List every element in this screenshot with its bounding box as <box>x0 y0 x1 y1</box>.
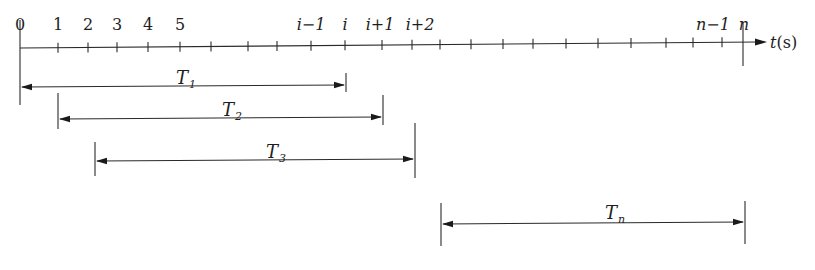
tick-label: n <box>739 15 749 34</box>
interval-label: T3 <box>266 141 286 165</box>
arrow-right-icon <box>403 156 414 162</box>
arrow-left-icon <box>96 158 107 164</box>
interval-line <box>443 222 743 224</box>
interval-label: T1 <box>176 67 196 91</box>
tick-label: i+1 <box>366 15 395 34</box>
tick-label: i <box>342 15 347 34</box>
interval-T3: T3 <box>95 123 415 178</box>
arrow-right-icon <box>733 219 744 225</box>
interval-T1: T1 <box>21 67 346 92</box>
tick-label: n−1 <box>696 15 730 34</box>
timeline-diagram: 012345i−1ii+1i+2n−1n t(s) T1T2T3Tn <box>0 0 815 270</box>
timeline-svg: 012345i−1ii+1i+2n−1n t(s) T1T2T3Tn <box>0 0 815 270</box>
interval-label: T2 <box>222 99 242 123</box>
axis-tick-labels: 012345i−1ii+1i+2n−1n <box>15 15 749 34</box>
interval-line <box>60 117 381 119</box>
arrow-right-icon <box>371 114 382 120</box>
axis-unit: (s) <box>776 33 797 52</box>
interval-T2: T2 <box>58 93 383 129</box>
tick-label: 5 <box>175 15 185 34</box>
tick-label: 2 <box>83 15 93 34</box>
interval-label: Tn <box>605 202 625 226</box>
tick-label: 0 <box>15 15 25 34</box>
arrow-left-icon <box>59 116 70 122</box>
interval-Tn: Tn <box>441 201 745 246</box>
tick-label: i−1 <box>297 15 326 34</box>
tick-label: 4 <box>143 15 153 34</box>
axis-arrow-icon <box>755 39 767 46</box>
tick-label: 3 <box>112 15 122 34</box>
interval-line <box>97 159 413 161</box>
arrow-right-icon <box>334 82 345 88</box>
tick-label: 1 <box>53 15 63 34</box>
arrow-left-icon <box>21 84 32 90</box>
tick-label: i+2 <box>406 15 435 34</box>
period-intervals: T1T2T3Tn <box>21 67 745 246</box>
time-axis: 012345i−1ii+1i+2n−1n t(s) <box>15 15 797 105</box>
arrow-left-icon <box>442 221 453 227</box>
axis-line <box>20 42 758 48</box>
axis-title: t(s) <box>770 33 797 52</box>
